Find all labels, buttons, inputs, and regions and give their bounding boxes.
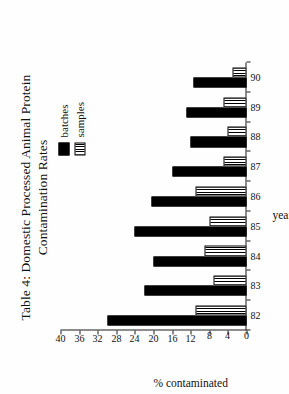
bar-samples-84 xyxy=(204,245,246,255)
category-tick-mark xyxy=(246,329,250,330)
bar-batches-89 xyxy=(186,107,246,117)
category-tick-label: 88 xyxy=(250,131,260,141)
bar-samples-83 xyxy=(213,275,246,285)
category-tick-mark xyxy=(246,61,250,62)
value-tick-label: 8 xyxy=(206,331,211,341)
value-axis-title: % contaminated xyxy=(153,376,227,388)
bar-samples-89 xyxy=(223,97,246,107)
bar-batches-86 xyxy=(151,196,246,206)
category-tick-mark xyxy=(246,91,250,92)
category-tick-mark xyxy=(246,299,250,300)
rotated-chart-canvas: Table 4: Domestic Processed Animal Prote… xyxy=(0,0,289,394)
value-tick-label: 24 xyxy=(129,333,139,343)
category-tick-label: 87 xyxy=(250,161,260,171)
category-axis-title: year xyxy=(272,208,289,220)
bar-samples-82 xyxy=(195,305,246,315)
bar-samples-86 xyxy=(195,186,246,196)
category-tick-label: 89 xyxy=(250,102,260,112)
category-tick-mark xyxy=(246,180,250,181)
category-tick-mark xyxy=(246,210,250,211)
bar-samples-85 xyxy=(209,216,246,226)
category-tick-label: 83 xyxy=(250,280,260,290)
category-tick-label: 84 xyxy=(250,251,260,261)
value-tick-label: 12 xyxy=(185,333,195,343)
bar-batches-85 xyxy=(134,226,246,236)
bar-samples-87 xyxy=(223,156,246,166)
value-tick-label: 20 xyxy=(148,333,158,343)
bar-batches-90 xyxy=(193,77,246,87)
bar-batches-87 xyxy=(172,166,246,176)
bar-samples-88 xyxy=(227,126,246,136)
bar-batches-88 xyxy=(190,136,246,146)
category-tick-mark xyxy=(246,121,250,122)
category-tick-label: 85 xyxy=(250,221,260,231)
value-tick-label: 0 xyxy=(244,331,249,341)
value-tick-label: 40 xyxy=(55,333,65,343)
value-tick-label: 4 xyxy=(225,331,230,341)
value-tick-label: 36 xyxy=(74,333,84,343)
chart-title: Table 4: Domestic Processed Animal Prote… xyxy=(16,0,50,394)
category-tick-mark xyxy=(246,269,250,270)
category-tick-label: 90 xyxy=(250,72,260,82)
category-tick-label: 86 xyxy=(250,191,260,201)
bar-samples-90 xyxy=(232,67,246,77)
category-tick-mark xyxy=(246,240,250,241)
plot-area: 0481216202428323640 828384858687888990 xyxy=(60,62,246,330)
value-tick-label: 16 xyxy=(167,333,177,343)
value-tick-label: 32 xyxy=(92,333,102,343)
bar-batches-82 xyxy=(107,315,247,325)
value-tick-label: 28 xyxy=(111,333,121,343)
category-tick-label: 82 xyxy=(250,310,260,320)
bar-batches-84 xyxy=(153,256,246,266)
category-tick-mark xyxy=(246,150,250,151)
bar-batches-83 xyxy=(144,285,246,295)
chart-figure: Table 4: Domestic Processed Animal Prote… xyxy=(0,0,289,394)
